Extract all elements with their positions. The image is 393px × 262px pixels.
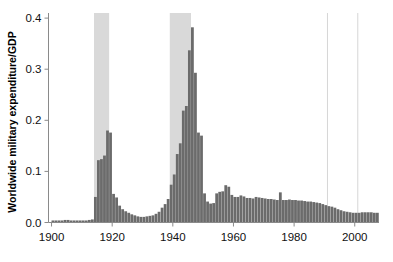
bar bbox=[282, 200, 285, 222]
bar bbox=[300, 201, 303, 223]
bar bbox=[246, 198, 249, 223]
bar bbox=[352, 213, 355, 223]
y-tick-label: 0.3 bbox=[26, 63, 42, 75]
bar bbox=[185, 106, 188, 223]
bar bbox=[224, 185, 227, 222]
bar bbox=[164, 204, 167, 222]
bar bbox=[218, 192, 221, 223]
bar bbox=[233, 197, 236, 223]
bar bbox=[194, 73, 197, 223]
bar bbox=[318, 203, 321, 222]
bar bbox=[97, 160, 100, 222]
bar bbox=[294, 200, 297, 222]
bar bbox=[252, 198, 255, 222]
bar bbox=[118, 206, 121, 223]
x-tick-label: 1940 bbox=[160, 231, 186, 243]
bar bbox=[243, 196, 246, 222]
bar bbox=[327, 206, 330, 222]
x-tick-label: 1960 bbox=[221, 231, 247, 243]
bar bbox=[258, 197, 261, 222]
bar bbox=[121, 209, 124, 222]
military-expenditure-bar-chart: 0.00.10.20.30.4 190019201940196019802000… bbox=[0, 0, 393, 262]
bar bbox=[100, 159, 103, 222]
bar bbox=[291, 200, 294, 222]
x-tick-label: 1920 bbox=[99, 231, 125, 243]
y-tick-label: 0.2 bbox=[26, 114, 42, 126]
bar bbox=[161, 208, 164, 223]
bar bbox=[206, 202, 209, 223]
x-tick-label: 1980 bbox=[281, 231, 307, 243]
bar bbox=[203, 193, 206, 222]
y-tick-label: 0.4 bbox=[26, 12, 43, 24]
y-tick-label: 0.0 bbox=[26, 217, 42, 229]
bar bbox=[124, 211, 127, 222]
chart-container: 0.00.10.20.30.4 190019201940196019802000… bbox=[0, 0, 393, 262]
bar bbox=[261, 198, 264, 223]
bar bbox=[106, 131, 109, 223]
bar bbox=[264, 198, 267, 222]
bar bbox=[288, 200, 291, 223]
bar bbox=[230, 195, 233, 223]
bar bbox=[297, 201, 300, 223]
bar bbox=[133, 215, 136, 222]
bar bbox=[312, 202, 315, 222]
bar bbox=[215, 193, 218, 222]
bar bbox=[143, 217, 146, 223]
bar bbox=[373, 213, 376, 223]
bar bbox=[191, 27, 194, 222]
bar bbox=[200, 136, 203, 223]
bar bbox=[109, 133, 112, 223]
x-tick-label: 1900 bbox=[39, 231, 65, 243]
bar bbox=[179, 143, 182, 222]
bar bbox=[276, 200, 279, 222]
bar bbox=[155, 214, 158, 223]
bar bbox=[279, 192, 282, 222]
bar bbox=[240, 195, 243, 222]
bar bbox=[321, 204, 324, 222]
bar bbox=[149, 216, 152, 223]
bar bbox=[340, 210, 343, 222]
x-tick-label: 2000 bbox=[342, 231, 368, 243]
bar bbox=[227, 187, 230, 223]
bar bbox=[367, 212, 370, 222]
bar bbox=[209, 204, 212, 223]
y-axis-title: Worldwide military expenditure/GDP bbox=[6, 31, 18, 212]
bar bbox=[212, 203, 215, 222]
bar bbox=[103, 156, 106, 223]
bar bbox=[309, 202, 312, 223]
bar bbox=[349, 212, 352, 222]
bar bbox=[152, 215, 155, 222]
bar bbox=[255, 197, 258, 223]
bar bbox=[376, 213, 379, 223]
bar bbox=[94, 197, 97, 223]
bar bbox=[236, 197, 239, 223]
bar bbox=[364, 212, 367, 222]
bar bbox=[173, 174, 176, 222]
bar bbox=[127, 213, 130, 223]
bar bbox=[324, 205, 327, 222]
bar bbox=[136, 216, 139, 222]
bar bbox=[249, 198, 252, 223]
bar bbox=[267, 199, 270, 223]
bar bbox=[130, 214, 133, 222]
bar bbox=[188, 50, 191, 222]
bar bbox=[115, 197, 118, 222]
bar bbox=[334, 208, 337, 223]
bar bbox=[303, 201, 306, 222]
bar bbox=[167, 199, 170, 223]
bar bbox=[343, 211, 346, 222]
y-tick-label: 0.1 bbox=[26, 165, 42, 177]
bar bbox=[158, 212, 161, 223]
bar bbox=[330, 207, 333, 223]
bar bbox=[139, 217, 142, 223]
bar bbox=[197, 133, 200, 223]
bar bbox=[361, 212, 364, 222]
bar bbox=[337, 209, 340, 222]
bar bbox=[170, 185, 173, 223]
bar bbox=[370, 212, 373, 222]
bar bbox=[270, 199, 273, 223]
bar bbox=[358, 213, 361, 223]
bar bbox=[285, 200, 288, 222]
bar bbox=[182, 111, 185, 223]
bar bbox=[146, 216, 149, 222]
